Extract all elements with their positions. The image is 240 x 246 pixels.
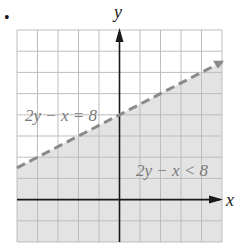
inequality-graph: • y x 2y − x = 8 2y − x < 8 [0, 0, 240, 246]
boundary-equation-label: 2y − x = 8 [25, 106, 98, 125]
bullet-marker: • [4, 9, 10, 26]
x-axis-label: x [225, 190, 234, 210]
region-inequality-label: 2y − x < 8 [136, 161, 209, 180]
y-axis-label: y [112, 2, 122, 22]
